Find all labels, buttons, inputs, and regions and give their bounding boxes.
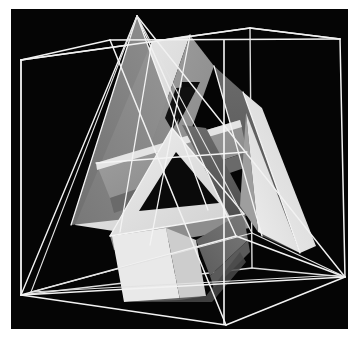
lower-left-wedge — [112, 228, 206, 302]
geometric-figure — [0, 0, 362, 342]
figure-frame — [0, 0, 362, 342]
cube-wireframe-front-edge-front_top_left-front_top_right — [110, 39, 340, 40]
